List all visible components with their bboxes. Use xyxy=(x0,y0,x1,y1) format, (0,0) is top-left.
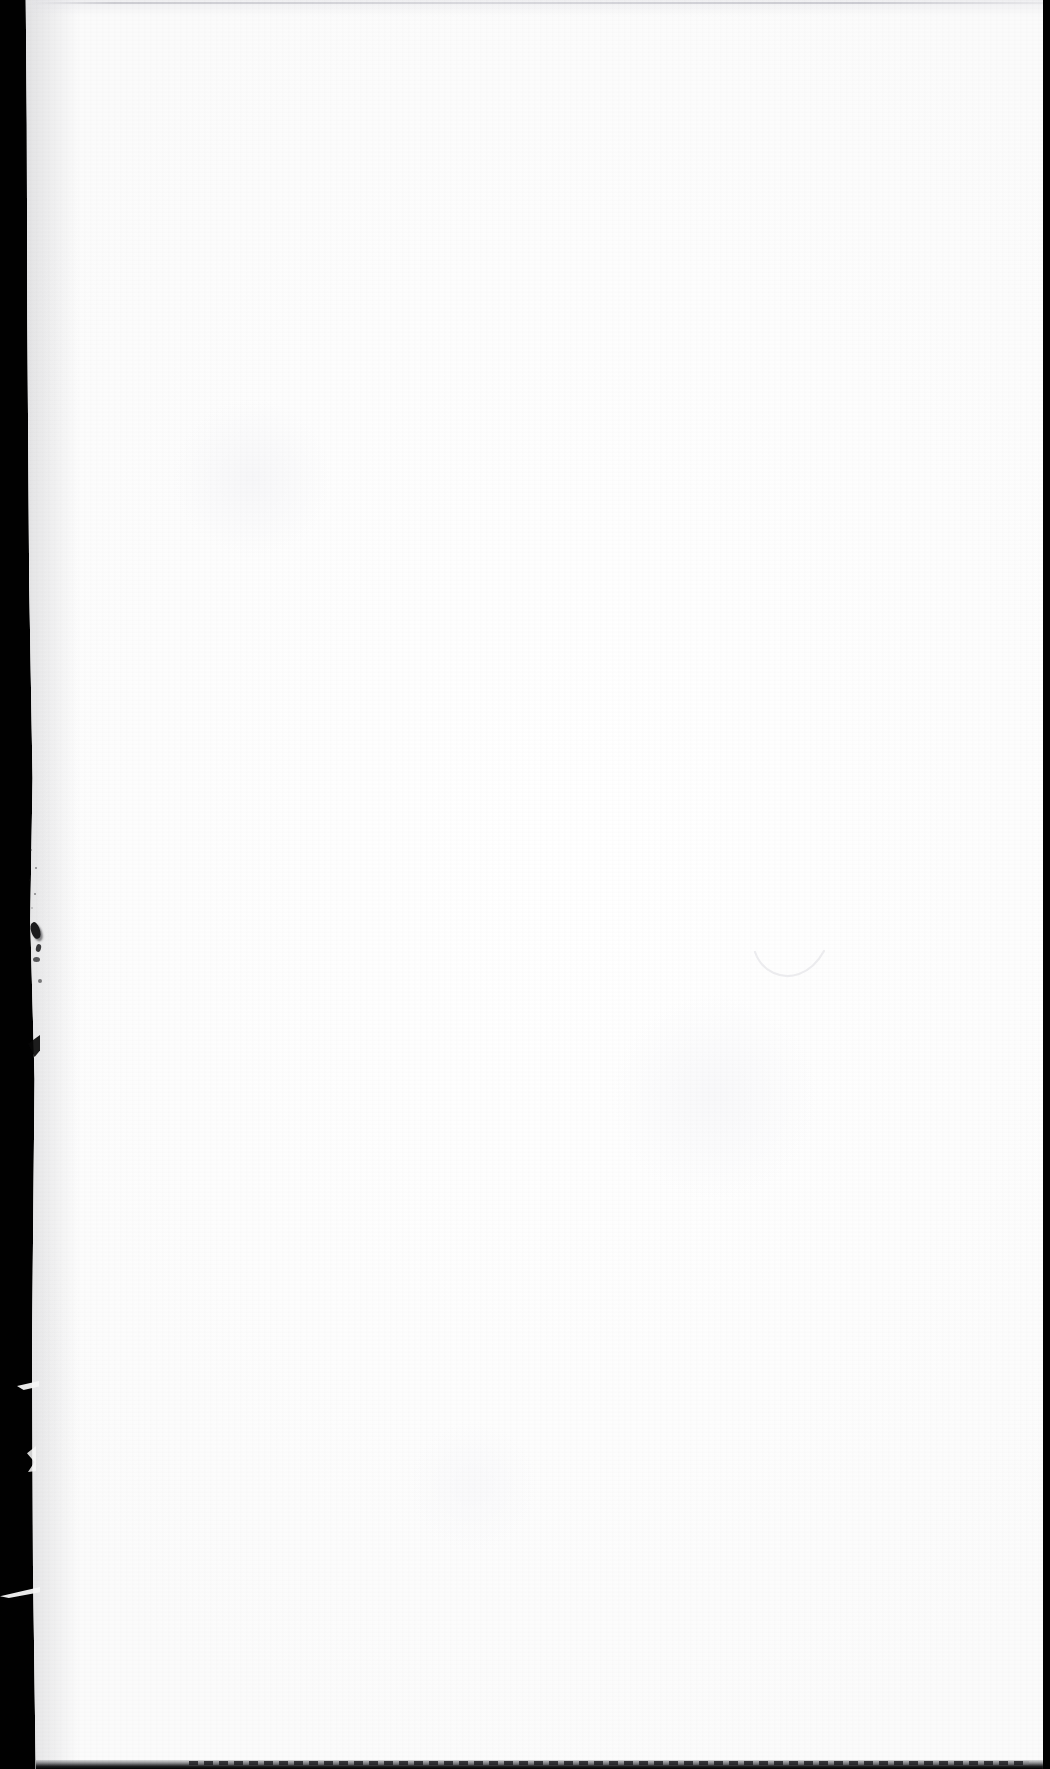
page-body-text xyxy=(95,88,977,1680)
scanned-page-sheet xyxy=(0,0,1050,1769)
ink-smudge xyxy=(38,979,42,983)
top-scan-line xyxy=(32,2,1043,4)
bottom-scan-dashes xyxy=(189,1761,1029,1765)
ink-flecks xyxy=(27,846,41,916)
ink-smudge xyxy=(33,957,40,962)
scan-canvas xyxy=(0,0,1050,1769)
